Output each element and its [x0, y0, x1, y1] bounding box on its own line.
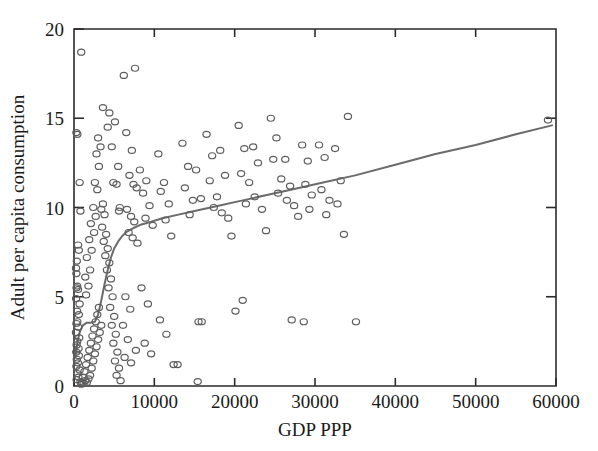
data-point — [96, 329, 103, 335]
data-point — [267, 115, 274, 121]
data-point — [115, 208, 122, 214]
data-point — [270, 156, 277, 162]
data-point — [134, 240, 141, 246]
fit-curve-group — [75, 125, 552, 357]
data-point — [124, 337, 131, 343]
data-point — [239, 297, 246, 303]
data-point — [156, 317, 163, 323]
data-point — [318, 187, 325, 193]
data-point — [141, 340, 148, 346]
data-point — [299, 142, 306, 148]
data-point — [90, 205, 97, 211]
data-point — [83, 254, 90, 260]
data-point — [91, 180, 98, 186]
data-point — [168, 233, 175, 239]
data-point — [304, 158, 311, 164]
data-point — [217, 147, 224, 153]
data-point — [120, 72, 127, 78]
data-point — [90, 229, 97, 235]
data-point — [184, 163, 191, 169]
data-point — [121, 354, 128, 360]
data-point — [95, 135, 102, 141]
y-tick-label: 10 — [45, 198, 64, 219]
data-point — [250, 144, 257, 150]
data-point — [283, 197, 290, 203]
data-point — [136, 167, 143, 173]
x-tick-label: 40000 — [372, 391, 420, 412]
data-point — [98, 322, 105, 328]
data-point — [102, 253, 109, 259]
data-point — [112, 331, 119, 337]
data-point — [321, 155, 328, 161]
data-point — [155, 151, 162, 157]
data-point — [225, 215, 232, 221]
data-point — [126, 172, 133, 178]
data-point — [352, 319, 359, 325]
data-point — [115, 365, 122, 371]
data-point — [91, 351, 98, 357]
data-point — [127, 306, 134, 312]
data-point — [108, 322, 115, 328]
data-point — [165, 201, 172, 207]
data-point — [88, 247, 95, 253]
data-point — [94, 187, 101, 193]
data-point — [213, 194, 220, 200]
data-point — [95, 163, 102, 169]
figure-container: 010000200003000040000500006000005101520G… — [0, 0, 598, 451]
data-point — [123, 206, 130, 212]
data-point — [334, 201, 341, 207]
data-point — [218, 210, 225, 216]
data-point — [221, 172, 228, 178]
data-point — [128, 147, 135, 153]
data-point — [100, 238, 107, 244]
data-point — [99, 105, 106, 111]
x-tick-label: 0 — [69, 391, 79, 412]
data-point — [160, 180, 167, 186]
data-point — [326, 197, 333, 203]
data-point — [194, 379, 201, 385]
data-point — [235, 122, 242, 128]
data-point — [291, 203, 298, 209]
data-point — [111, 313, 118, 319]
data-point — [143, 178, 150, 184]
y-tick-label: 15 — [45, 108, 64, 129]
data-point — [189, 197, 196, 203]
data-point — [123, 130, 130, 136]
data-point — [148, 351, 155, 357]
data-point — [93, 344, 100, 350]
data-point — [117, 378, 124, 384]
data-point — [144, 301, 151, 307]
data-point — [115, 163, 122, 169]
fit-curve — [75, 125, 552, 357]
x-tick-label: 30000 — [291, 391, 339, 412]
x-tick-label: 10000 — [131, 391, 179, 412]
data-point — [114, 349, 121, 355]
data-point — [111, 119, 118, 125]
data-point — [97, 144, 104, 150]
y-tick-label: 20 — [45, 19, 64, 40]
data-point — [157, 188, 164, 194]
data-point — [163, 331, 170, 337]
data-point — [82, 292, 89, 298]
data-point — [76, 301, 83, 307]
data-point — [146, 203, 153, 209]
data-point — [99, 224, 106, 230]
data-point — [262, 228, 269, 234]
data-point — [209, 153, 216, 159]
data-point — [295, 213, 302, 219]
data-point — [315, 142, 322, 148]
data-point — [241, 146, 248, 152]
y-tick-label: 0 — [55, 376, 65, 397]
data-point — [132, 347, 139, 353]
data-point — [228, 233, 235, 239]
data-point — [237, 171, 244, 177]
x-tick-label: 20000 — [211, 391, 259, 412]
y-tick-label: 5 — [55, 287, 65, 308]
data-point — [78, 49, 85, 55]
data-point — [106, 110, 113, 116]
data-point — [203, 131, 210, 137]
data-point — [74, 287, 81, 293]
data-point — [273, 135, 280, 141]
data-point — [77, 208, 84, 214]
data-point — [104, 246, 111, 252]
